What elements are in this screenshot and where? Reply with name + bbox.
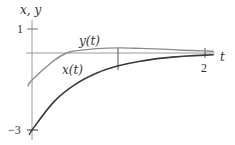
series-label-x: x(t) — [62, 63, 83, 77]
series-label-y: y(t) — [78, 34, 100, 48]
tick-label-y-neg3: −3 — [8, 123, 21, 137]
y-axis-label: x, y — [20, 3, 41, 17]
series-x-curve — [29, 55, 213, 135]
series-y-curve — [28, 48, 214, 87]
chart-figure: x, y 1 −3 y(t) x(t) 2 t — [0, 0, 235, 145]
tick-label-y-1: 1 — [17, 22, 23, 36]
t-axis-label: t — [220, 50, 225, 64]
tick-label-t-2: 2 — [201, 61, 207, 75]
chart-svg: x, y 1 −3 y(t) x(t) 2 t — [0, 0, 235, 145]
